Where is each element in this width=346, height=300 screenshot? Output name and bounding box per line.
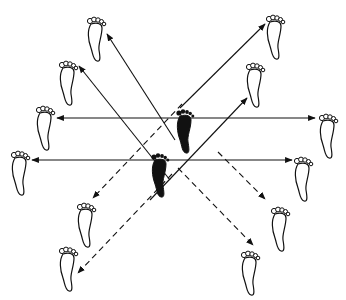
foot-right-lower-icon [294,157,312,201]
arrow-to-bottom-right-far [178,168,253,245]
foot-top-right-near-icon [246,63,264,107]
footwork-diagram [0,0,346,300]
foot-bottom-right-far-icon [241,251,259,295]
center-right-foot-icon [176,109,194,153]
foot-right-upper-icon [319,114,337,158]
foot-bottom-left-far-icon [59,247,77,291]
target-footprints [11,15,337,295]
foot-top-right-far-icon [266,15,284,59]
direction-arrows [32,24,315,273]
arrow-to-top-right-near [150,98,247,200]
foot-left-lower-icon [11,151,29,195]
foot-left-upper-icon [36,106,54,150]
diagram-canvas [0,0,346,300]
arrow-to-top-left-far [107,34,175,140]
foot-top-left-near-icon [59,61,77,105]
arrow-to-bottom-right-near [218,152,265,199]
foot-bottom-right-near-icon [271,207,289,251]
foot-top-left-far-icon [87,17,105,61]
foot-bottom-left-near-icon [77,203,95,247]
starting-footprints [151,109,194,197]
